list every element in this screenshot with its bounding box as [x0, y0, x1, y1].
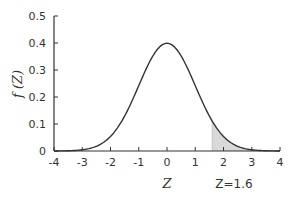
- axes: [54, 16, 280, 151]
- x-tick-label: 2: [220, 156, 227, 169]
- y-axis-title: f (Z): [10, 70, 25, 99]
- x-tick-labels: -4-3-2-101234: [49, 156, 284, 169]
- x-tick-label: -1: [133, 156, 144, 169]
- density-curve: [54, 43, 280, 151]
- y-tick-label: 0.1: [29, 118, 47, 131]
- y-tick-label: 0.5: [29, 10, 47, 23]
- x-tick-label: 4: [277, 156, 284, 169]
- y-tick-label: 0.2: [29, 91, 47, 104]
- x-tick-label: -4: [49, 156, 60, 169]
- normal-distribution-chart: -4-3-2-101234 00.10.20.30.40.5 f (Z) Z Z…: [0, 0, 297, 200]
- x-tick-label: -3: [77, 156, 88, 169]
- x-tick-label: -2: [105, 156, 116, 169]
- x-tick-label: 0: [164, 156, 171, 169]
- x-tick-label: 1: [192, 156, 199, 169]
- y-tick-label: 0: [39, 145, 46, 158]
- y-tick-label: 0.4: [29, 37, 47, 50]
- y-tick-label: 0.3: [29, 64, 47, 77]
- x-tick-label: 3: [248, 156, 255, 169]
- x-axis-title: Z: [161, 176, 172, 191]
- z-value-annotation: Z=1.6: [215, 177, 252, 191]
- y-tick-labels: 00.10.20.30.40.5: [29, 10, 47, 158]
